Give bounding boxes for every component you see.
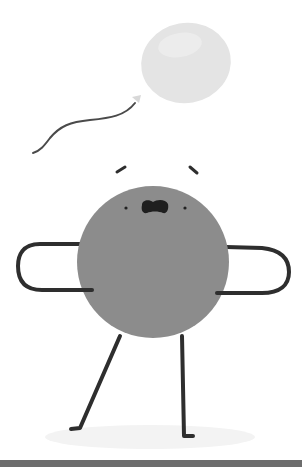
balloon-string: [33, 103, 135, 153]
mouth: [142, 200, 169, 213]
eye-left: [124, 206, 127, 209]
illustration-canvas: [0, 0, 302, 467]
arm-right: [218, 247, 289, 293]
balloon-knot: [132, 95, 141, 103]
balloon: [135, 16, 238, 110]
bottom-strip: [0, 460, 302, 467]
leg-left: [71, 336, 120, 429]
illustration: Illustration of a round gray character w…: [0, 0, 302, 467]
eyebrow-right: [190, 167, 197, 173]
eyebrow-left: [117, 167, 125, 172]
leg-right: [182, 336, 193, 436]
eye-right: [183, 206, 186, 209]
